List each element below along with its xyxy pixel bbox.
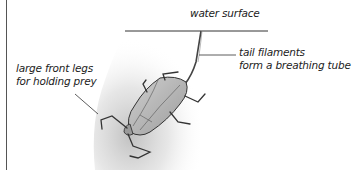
label-water-surface-text: water surface (190, 7, 259, 19)
legs-leader-line (75, 94, 98, 114)
label-tail-filaments: tail filaments form a breathing tube (239, 46, 351, 72)
label-tail-line1: tail filaments (239, 46, 351, 59)
label-water-surface: water surface (190, 7, 259, 20)
label-legs-line2: for holding prey (16, 75, 96, 88)
label-tail-line2: form a breathing tube (239, 59, 351, 72)
label-legs-line1: large front legs (16, 62, 96, 75)
label-front-legs: large front legs for holding prey (16, 62, 96, 88)
